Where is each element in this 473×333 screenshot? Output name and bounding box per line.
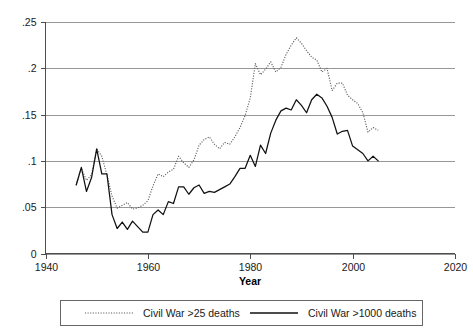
legend-label-civil-war-1000: Civil War >1000 deaths [308, 307, 416, 319]
y-tick-label: .25 [22, 16, 37, 28]
y-tick-label: .15 [22, 109, 37, 121]
line-chart: 0.05.1.15.2.25 19401960198020002020 Year… [0, 0, 473, 333]
y-tick-label: 0 [31, 248, 37, 260]
x-tick-label: 2020 [444, 261, 468, 273]
chart-background [0, 0, 473, 333]
y-tick-label: .05 [22, 201, 37, 213]
chart-figure: 0.05.1.15.2.25 19401960198020002020 Year… [0, 0, 473, 333]
x-tick-label: 1960 [137, 261, 161, 273]
x-tick-label: 1980 [239, 261, 263, 273]
y-tick-label: .1 [28, 155, 37, 167]
x-tick-label: 2000 [342, 261, 366, 273]
y-tick-label: .2 [28, 62, 37, 74]
x-tick-label: 1940 [35, 261, 59, 273]
x-axis-title: Year [239, 275, 261, 287]
legend-label-civil-war-25: Civil War >25 deaths [143, 307, 240, 319]
chart-legend: Civil War >25 deaths Civil War >1000 dea… [61, 301, 423, 326]
